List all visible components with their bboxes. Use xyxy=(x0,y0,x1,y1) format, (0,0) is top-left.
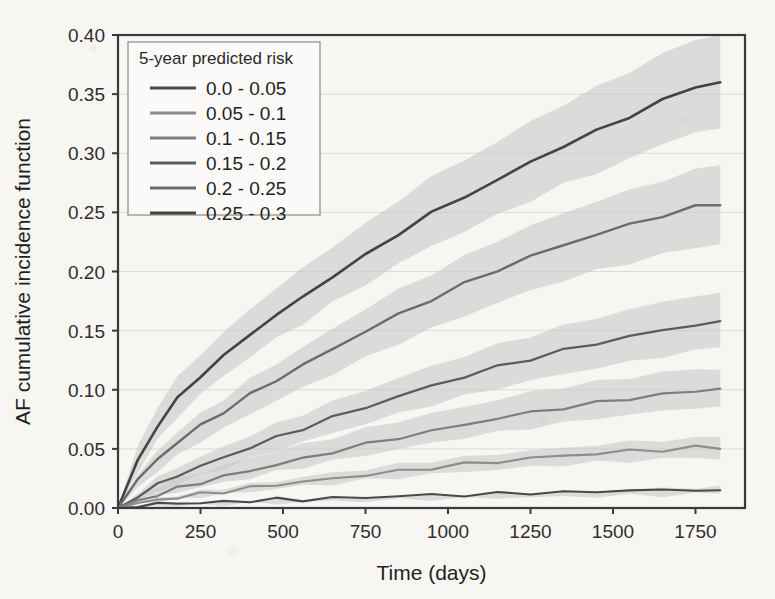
x-tick-label: 0 xyxy=(113,521,124,542)
x-axis-title: Time (days) xyxy=(376,561,486,584)
legend-entry-label: 0.05 - 0.1 xyxy=(206,103,286,124)
x-tick-label: 250 xyxy=(185,521,217,542)
x-tick-label: 500 xyxy=(267,521,299,542)
y-axis-title: AF cumulative incidence function xyxy=(11,118,34,425)
cumulative-incidence-chart: 02505007501000125015001750 0.000.050.100… xyxy=(0,0,775,599)
y-tick-label: 0.00 xyxy=(68,498,105,519)
legend-entry-label: 0.15 - 0.2 xyxy=(206,153,286,174)
x-tick-label: 1250 xyxy=(509,521,551,542)
y-tick-label: 0.40 xyxy=(68,25,105,46)
x-tick-label: 1000 xyxy=(427,521,469,542)
x-tick-label: 1500 xyxy=(592,521,634,542)
legend-title: 5-year predicted risk xyxy=(139,49,294,68)
y-tick-label: 0.35 xyxy=(68,84,105,105)
legend-entry-label: 0.0 - 0.05 xyxy=(206,78,286,99)
y-tick-label: 0.30 xyxy=(68,143,105,164)
y-tick-label: 0.10 xyxy=(68,380,105,401)
x-axis-ticks: 02505007501000125015001750 xyxy=(113,508,717,542)
legend-entry-label: 0.25 - 0.3 xyxy=(206,203,286,224)
confidence-band xyxy=(118,486,720,508)
legend: 5-year predicted risk0.0 - 0.050.05 - 0.… xyxy=(128,42,320,224)
y-tick-label: 0.15 xyxy=(68,321,105,342)
y-axis-ticks: 0.000.050.100.150.200.250.300.350.40 xyxy=(68,25,118,519)
x-tick-label: 750 xyxy=(350,521,382,542)
figure-container: 02505007501000125015001750 0.000.050.100… xyxy=(0,0,775,599)
y-tick-label: 0.05 xyxy=(68,439,105,460)
y-tick-label: 0.25 xyxy=(68,202,105,223)
legend-entry-label: 0.1 - 0.15 xyxy=(206,128,286,149)
y-tick-label: 0.20 xyxy=(68,262,105,283)
x-tick-label: 1750 xyxy=(674,521,716,542)
legend-entry-label: 0.2 - 0.25 xyxy=(206,178,286,199)
